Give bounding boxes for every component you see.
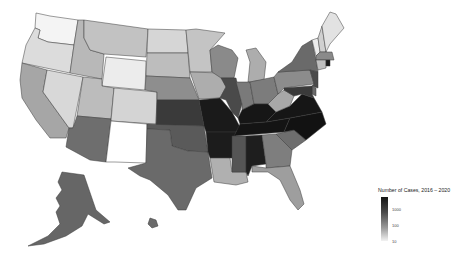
state-wy <box>102 57 146 90</box>
state-sd <box>146 53 190 78</box>
state-ma <box>316 52 334 60</box>
map-legend: Number of Cases, 2016 – 2020 1000 100 10 <box>378 187 463 256</box>
state-ak <box>28 172 110 246</box>
state-me <box>322 12 344 52</box>
state-ks <box>156 100 204 126</box>
legend-tick-10: 10 <box>392 239 396 244</box>
legend-title: Number of Cases, 2016 – 2020 <box>378 187 450 193</box>
state-ms <box>232 136 246 172</box>
state-ar <box>206 132 236 158</box>
legend-tick-100: 100 <box>392 223 399 228</box>
state-hi <box>148 218 158 228</box>
state-co <box>111 88 157 124</box>
state-de <box>312 86 316 96</box>
state-mi <box>246 48 266 82</box>
state-ny <box>278 40 318 72</box>
state-ri <box>326 60 330 66</box>
state-nm <box>106 121 147 163</box>
legend-color-bar <box>381 197 388 241</box>
state-fl <box>252 166 304 210</box>
state-wi <box>210 45 238 78</box>
state-nd <box>147 29 188 53</box>
legend-tick-1000: 1000 <box>392 207 401 212</box>
state-ct <box>316 60 326 70</box>
